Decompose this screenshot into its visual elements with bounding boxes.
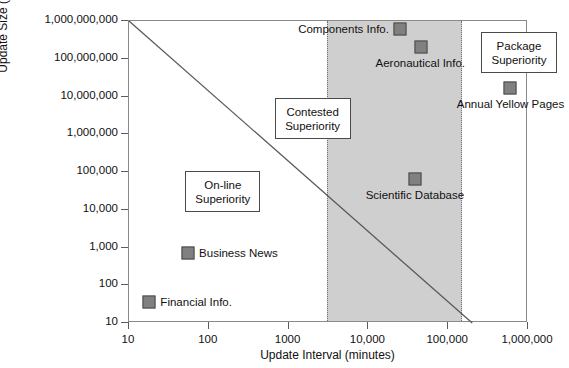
y-tick-label: 1,000,000 [67,127,118,139]
y-tick [121,322,128,323]
callout-line-1: On-line [204,178,241,192]
y-tick [121,96,128,97]
data-point-marker[interactable] [408,173,421,186]
y-tick-label: 1,000,000,000 [44,14,118,26]
data-point-label: Annual Yellow Pages [457,98,564,110]
y-tick-label: 10 [105,316,118,328]
data-point-marker[interactable] [143,296,156,309]
data-point-label: Business News [199,247,278,259]
x-tick [128,322,129,329]
callout-line-2: Superiority [195,192,250,206]
callout-line-2: Superiority [285,119,340,133]
data-point-label: Scientific Database [366,189,464,201]
y-tick-label: 100,000 [76,165,118,177]
y-tick [121,209,128,210]
callout-online-superiority: On-line Superiority [185,171,260,212]
y-tick-label: 100,000,000 [54,52,118,64]
y-tick [121,20,128,21]
callout-line-1: Contested [286,105,338,119]
y-tick [121,284,128,285]
x-tick [288,322,289,329]
data-point-marker[interactable] [394,23,407,36]
plot-area: Financial Info.Business NewsComponents I… [128,20,527,322]
data-point-label: Financial Info. [160,296,232,308]
y-tick [121,58,128,59]
data-point-label: Aeronautical Info. [376,57,466,69]
y-tick-label: 1,000 [89,241,118,253]
x-axis-title: Update Interval (minutes) [128,348,527,362]
y-tick-label: 10,000 [83,203,118,215]
y-tick [121,171,128,172]
x-tick [527,322,528,329]
y-tick [121,247,128,248]
y-tick-label: 10,000,000 [60,90,118,102]
y-tick-label: 100 [99,278,118,290]
data-point-marker[interactable] [414,41,427,54]
y-tick [121,133,128,134]
data-point-marker[interactable] [504,81,517,94]
y-axis-title: Update Size (kilobits) [0,0,10,96]
data-point-label: Components Info. [298,23,389,35]
x-tick [208,322,209,329]
callout-line-1: Package [497,39,542,53]
callout-line-2: Superiority [492,53,547,67]
x-tick-label: 1,000,000 [467,334,569,346]
data-point-marker[interactable] [182,247,195,260]
callout-contested-superiority: Contested Superiority [275,98,351,139]
callout-package-superiority: Package Superiority [481,32,557,73]
x-tick [447,322,448,329]
scan-artifact-strip [60,0,480,4]
x-tick [367,322,368,329]
